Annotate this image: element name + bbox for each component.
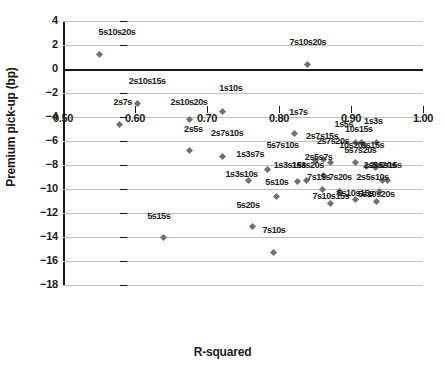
data-point bbox=[160, 233, 167, 240]
data-point-label: 1s10s bbox=[219, 84, 242, 93]
data-point-label: 2s5s15s bbox=[369, 161, 401, 170]
y-tick bbox=[120, 141, 127, 142]
y-tick bbox=[120, 21, 127, 22]
y-tick bbox=[120, 69, 127, 70]
scatter-chart: Premium pick-up (bp) R-squared 420−2−4−6… bbox=[0, 0, 445, 375]
x-tick-label: 0.50 bbox=[41, 112, 85, 124]
zero-axis-line bbox=[63, 69, 423, 71]
gridline bbox=[63, 237, 423, 238]
gridline bbox=[63, 261, 423, 262]
y-tick-label: 0 bbox=[18, 62, 58, 74]
y-axis-title: Premium pick-up (bp) bbox=[4, 47, 18, 207]
y-tick-label: −8 bbox=[18, 158, 58, 170]
data-point-label: 1s3s7s bbox=[236, 150, 264, 159]
data-point-label: 1s3s20s bbox=[292, 161, 324, 170]
y-tick bbox=[120, 285, 127, 286]
data-point bbox=[294, 178, 301, 185]
y-tick bbox=[120, 213, 127, 214]
data-point bbox=[291, 130, 298, 137]
data-point-label: 5s10s20s bbox=[99, 28, 136, 37]
data-point-label: 5s10s20s bbox=[358, 190, 395, 199]
gridline bbox=[63, 213, 423, 214]
y-tick-label: −16 bbox=[18, 254, 58, 266]
data-point-label: 1s3s10s bbox=[225, 170, 257, 179]
y-tick-label: 4 bbox=[18, 14, 58, 26]
data-point-label: 2s7s bbox=[114, 98, 132, 107]
data-point-label: 7s10s20s bbox=[289, 38, 326, 47]
y-tick bbox=[120, 93, 127, 94]
y-tick-label: −14 bbox=[18, 230, 58, 242]
data-point bbox=[185, 147, 192, 154]
data-point-label: 5s7s20s bbox=[344, 146, 376, 155]
y-tick-label: −12 bbox=[18, 206, 58, 218]
data-point-label: 2s5s bbox=[184, 125, 202, 134]
gridline bbox=[63, 285, 423, 286]
data-point bbox=[273, 193, 280, 200]
y-tick bbox=[120, 189, 127, 190]
data-point bbox=[270, 249, 277, 256]
y-tick-label: −18 bbox=[18, 278, 58, 290]
data-point bbox=[304, 61, 311, 68]
y-tick-label: 2 bbox=[18, 38, 58, 50]
y-tick-label: −6 bbox=[18, 134, 58, 146]
y-tick bbox=[120, 261, 127, 262]
gridline bbox=[63, 21, 423, 22]
data-point-label: 2s10s20s bbox=[171, 98, 208, 107]
data-point-label: 7s10s bbox=[262, 226, 285, 235]
data-point-label: 2s7s10s bbox=[211, 129, 243, 138]
data-point-label: 5s20s bbox=[237, 201, 260, 210]
data-point-label: 1s7s bbox=[289, 108, 307, 117]
y-tick bbox=[120, 237, 127, 238]
data-point-label: 7s15s bbox=[307, 173, 330, 182]
data-point-label: 7s20s bbox=[329, 173, 352, 182]
data-point-label: 2s10s15s bbox=[129, 77, 166, 86]
data-point-label: 5s7s10s bbox=[266, 141, 298, 150]
x-tick-label: 1.00 bbox=[401, 112, 445, 124]
y-tick-label: −10 bbox=[18, 182, 58, 194]
y-tick-label: −2 bbox=[18, 86, 58, 98]
y-tick bbox=[120, 165, 127, 166]
gridline bbox=[63, 93, 423, 94]
data-point bbox=[95, 51, 102, 58]
data-point-label: 5s15s bbox=[147, 212, 170, 221]
data-point-label: 2s5s10s bbox=[356, 173, 388, 182]
y-tick bbox=[120, 45, 127, 46]
data-point bbox=[219, 153, 226, 160]
data-point-label: 5s10s bbox=[265, 178, 288, 187]
gridline bbox=[63, 45, 423, 46]
data-point-label: 10s15s bbox=[345, 125, 373, 134]
data-point bbox=[264, 166, 271, 173]
x-axis-title: R-squared bbox=[0, 345, 445, 359]
plot-area: 420−2−4−6−8−10−12−14−16−18 0.500.600.700… bbox=[63, 21, 423, 285]
data-point bbox=[249, 223, 256, 230]
